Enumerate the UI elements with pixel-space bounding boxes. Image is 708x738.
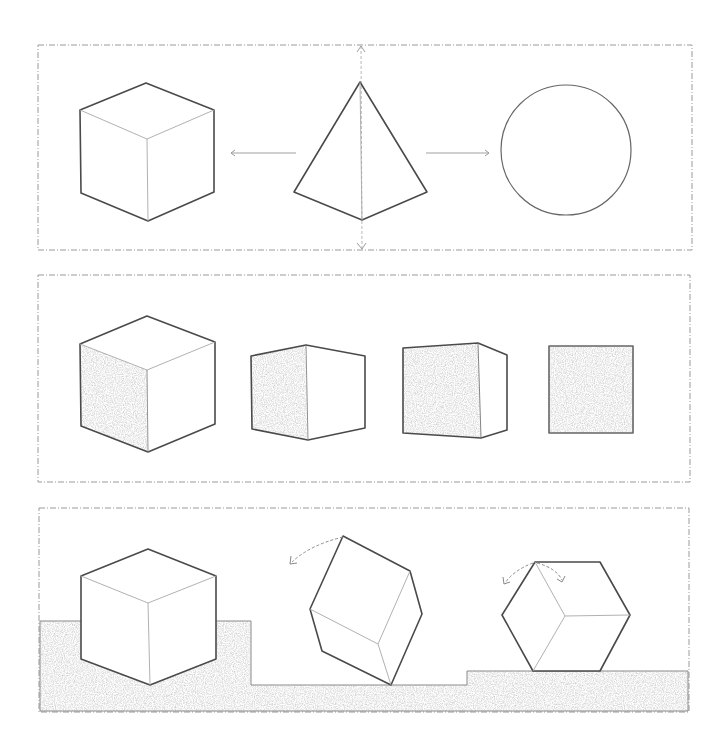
panel-ground-balance — [39, 508, 689, 712]
circle-view — [501, 85, 631, 215]
cube-corner-view — [251, 345, 365, 440]
cube-outline — [80, 83, 214, 221]
pyramid-view — [294, 46, 427, 249]
cube-on-ground — [81, 549, 216, 685]
cube-slight-turn — [403, 343, 507, 438]
cube-tipping — [290, 536, 422, 685]
cube-balanced — [502, 562, 630, 671]
sketch-canvas — [0, 0, 708, 738]
square-front-view — [549, 346, 633, 433]
panel-rotation-views — [38, 275, 690, 482]
axis-arrow-down-icon — [357, 243, 366, 249]
cube-isometric-shaded — [80, 316, 215, 452]
panel-projection — [38, 45, 692, 250]
